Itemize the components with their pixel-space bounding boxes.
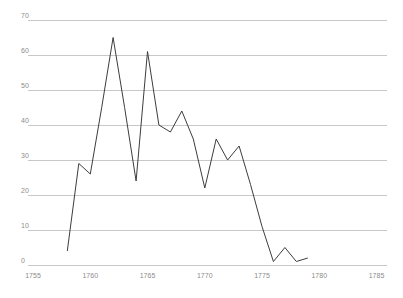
x-tick-label-1760: 1760 [82,272,98,279]
y-tick-label-40: 40 [21,117,29,124]
y-tick-label-50: 50 [21,82,29,89]
data-series-line [67,38,307,262]
line-chart: 0102030405060701755176017651770177517801… [0,0,403,298]
chart-canvas: 0102030405060701755176017651770177517801… [0,0,403,298]
y-tick-label-70: 70 [21,12,29,19]
x-tick-label-1780: 1780 [311,272,327,279]
y-tick-label-10: 10 [21,222,29,229]
y-tick-label-20: 20 [21,187,29,194]
x-tick-label-1765: 1765 [140,272,156,279]
y-tick-label-30: 30 [21,152,29,159]
x-tick-label-1770: 1770 [197,272,213,279]
x-tick-label-1785: 1785 [369,272,385,279]
y-tick-label-0: 0 [21,257,25,264]
x-tick-label-1775: 1775 [254,272,270,279]
x-tick-label-1755: 1755 [25,272,41,279]
y-tick-label-60: 60 [21,47,29,54]
